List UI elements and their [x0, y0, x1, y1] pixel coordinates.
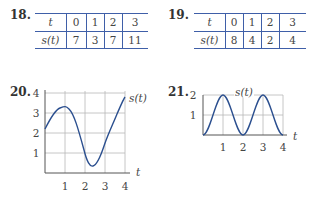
- svg-text:1: 1: [190, 109, 197, 121]
- svg-text:2: 2: [240, 141, 247, 153]
- svg-text:1: 1: [220, 141, 227, 153]
- ticks-21: 1 2 3 4 2 1: [190, 89, 287, 153]
- svg-text:3: 3: [260, 141, 267, 153]
- grid-21: [203, 95, 283, 135]
- graph-21: 1 2 3 4 2 1 s(t) t: [0, 0, 318, 202]
- label-t-21: t: [293, 130, 298, 142]
- svg-text:4: 4: [280, 141, 287, 153]
- svg-text:2: 2: [190, 89, 197, 101]
- label-s-21: s(t): [235, 86, 253, 98]
